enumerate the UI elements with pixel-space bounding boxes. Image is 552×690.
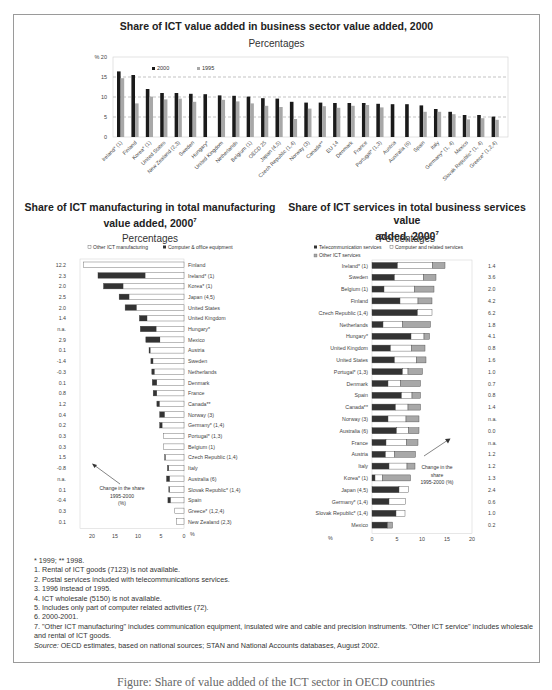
footnote: 2. Postal services included with telecom… <box>34 575 534 584</box>
legend-swatch-2000 <box>152 67 155 70</box>
bar-computer-office <box>160 423 163 429</box>
bar-other-ict-services <box>415 286 435 292</box>
bar-other-ict-services <box>409 428 420 434</box>
bar-telecommunication <box>372 310 418 316</box>
footnote: 3. 1996 instead of 1995. <box>34 584 534 593</box>
bar-other-ict-manufacturing <box>149 348 184 354</box>
bar-computer-office <box>157 401 160 407</box>
change-value: 6.2 <box>488 310 495 316</box>
bar-other-ict-manufacturing <box>152 369 184 375</box>
x-unit-label: % <box>328 535 333 541</box>
category-label: Mexico <box>188 337 205 343</box>
category-label: Canada** <box>188 401 211 407</box>
bar-2000 <box>348 103 352 137</box>
figure-caption: Figure: Share of value added of the ICT … <box>0 675 552 690</box>
bar-2000 <box>362 103 366 137</box>
legend-swatch-computer-office <box>163 246 166 249</box>
bar-computer-office <box>140 326 156 332</box>
bar-other-ict-services <box>412 392 421 398</box>
change-value: -0.3 <box>57 369 66 375</box>
legend-swatch-1995 <box>197 67 200 70</box>
bar-2000 <box>319 103 323 137</box>
bar-1995 <box>322 106 326 137</box>
bar-computer-related <box>386 440 407 446</box>
footnote: * 1999; ** 1998. <box>34 556 534 565</box>
bar-telecommunication <box>372 274 395 280</box>
legend-label-1995: 1995 <box>202 65 214 71</box>
bar-2000 <box>405 104 409 137</box>
change-value: 0.7 <box>488 381 495 387</box>
bar-1995 <box>308 109 312 137</box>
bar-1995 <box>178 99 182 137</box>
bar-other-ict-services <box>383 475 411 481</box>
x-tick-label: Spain <box>412 139 426 153</box>
bar-2000 <box>290 102 294 137</box>
change-value: 0.6 <box>488 499 495 505</box>
bar-computer-office <box>169 487 170 493</box>
bar-1995 <box>466 119 470 137</box>
bar-computer-office <box>125 305 136 311</box>
bar-other-ict-manufacturing <box>164 444 184 450</box>
x-tick-label: Ireland* (1) <box>101 139 124 162</box>
category-label: Japan (4,5) <box>188 294 215 300</box>
bar-computer-related <box>395 274 424 280</box>
footnote: 5. Includes only part of computer relate… <box>34 603 534 612</box>
bar-1995 <box>135 103 139 137</box>
annotation-text: Change in the <box>421 464 452 470</box>
x-tick-label: 20 <box>469 536 475 542</box>
bar-1995 <box>236 101 240 137</box>
change-value: 1.0 <box>488 369 495 375</box>
bar-other-ict-services <box>418 298 432 304</box>
bar-2000 <box>434 109 438 137</box>
bar-2000 <box>304 103 308 137</box>
arrow-head-icon <box>92 464 97 469</box>
footnote: 4. ICT wholesale (5150) is not available… <box>34 594 534 603</box>
bar-computer-related <box>418 310 433 316</box>
legend-label-computer-office: Computer & office equipment <box>168 244 233 250</box>
bar-other-ict-manufacturing <box>160 423 184 429</box>
change-value: -1.4 <box>57 358 66 364</box>
x-tick-label: 15 <box>112 533 118 539</box>
bar-other-ict-manufacturing <box>152 380 184 386</box>
bar-other-ict-services <box>424 274 437 280</box>
change-value: 0.2 <box>59 422 66 428</box>
change-value: 1.0 <box>488 510 495 516</box>
bar-telecommunication <box>372 499 389 505</box>
x-tick-label: 20 <box>89 533 95 539</box>
left-bar-chart: Other ICT manufacturingComputer & office… <box>0 240 276 560</box>
bar-telecommunication <box>372 451 386 457</box>
change-value: 1.2 <box>59 401 66 407</box>
category-label: Denmark <box>347 381 369 387</box>
y-tick-label: 5 <box>104 114 107 120</box>
category-label: United States <box>336 357 368 363</box>
change-value: 0.8 <box>488 345 495 351</box>
x-unit-label: % <box>190 531 195 537</box>
bar-computer-related <box>403 369 409 375</box>
bar-telecommunication <box>372 404 396 410</box>
change-value: 1.5 <box>59 454 66 460</box>
bar-2000 <box>492 117 496 137</box>
category-label: Netherlands <box>188 369 217 375</box>
annotation-text: share <box>431 472 444 478</box>
bar-computer-office <box>152 380 157 386</box>
bar-telecommunication <box>372 345 391 351</box>
bar-computer-related <box>400 298 418 304</box>
change-value: 1.4 <box>488 404 495 410</box>
bar-1995 <box>495 120 499 137</box>
bar-computer-related <box>399 487 409 493</box>
bar-other-ict-services <box>424 333 430 339</box>
bar-computer-related <box>396 404 409 410</box>
legend-label-other-ict-manufacturing: Other ICT manufacturing <box>93 244 148 250</box>
change-value: n.a. <box>488 440 497 446</box>
category-label: Hungary* <box>188 326 210 332</box>
change-value: 0.2 <box>488 522 495 528</box>
category-label: Portugal* (1,3) <box>188 433 222 439</box>
category-label: Denmark <box>188 380 210 386</box>
bar-2000 <box>146 89 150 137</box>
bar-2000 <box>160 93 164 137</box>
bar-telecommunication <box>372 522 388 528</box>
category-label: Greece* (1,2,4) <box>188 508 224 514</box>
bar-1995 <box>265 106 269 137</box>
bar-2000 <box>218 95 222 137</box>
bar-1995 <box>164 99 168 137</box>
